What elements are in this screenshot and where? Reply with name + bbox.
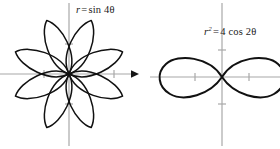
equation-label-rose: r=sin 4θ [76,4,115,15]
lemniscate-label-theta: θ [251,26,256,37]
lemniscate-axes [150,3,280,146]
lemniscate-lobe-group [160,58,280,97]
rose-petal [11,42,73,84]
rose-petal [65,42,127,84]
rose-petal [59,16,101,78]
lemniscate-label-equals: = [212,26,220,37]
rose-label-function: sin [88,4,101,15]
rose-plot-canvas [0,0,140,149]
figure-rose-curve [0,0,140,149]
rose-petal [37,16,79,78]
equation-label-lemniscate: r2=4 cos 2θ [204,26,257,37]
lemniscate-label-coefficient: 4 [220,26,225,37]
rose-label-theta: θ [110,4,115,15]
lemniscate-plot-canvas [140,0,280,149]
rose-petal [11,64,73,106]
lemniscate-lobe-left [160,58,222,97]
rose-petal [37,70,79,132]
rose-x-axis-arrowhead [131,70,139,78]
figure-lemniscate-curve [140,0,280,149]
rose-petal [65,64,127,106]
lemniscate-lobe-right [222,58,280,97]
polar-graphs-plate: r=sin 4θ r2=4 cos 2θ [0,0,280,149]
rose-petal [59,70,101,132]
lemniscate-label-function: cos [228,26,243,37]
